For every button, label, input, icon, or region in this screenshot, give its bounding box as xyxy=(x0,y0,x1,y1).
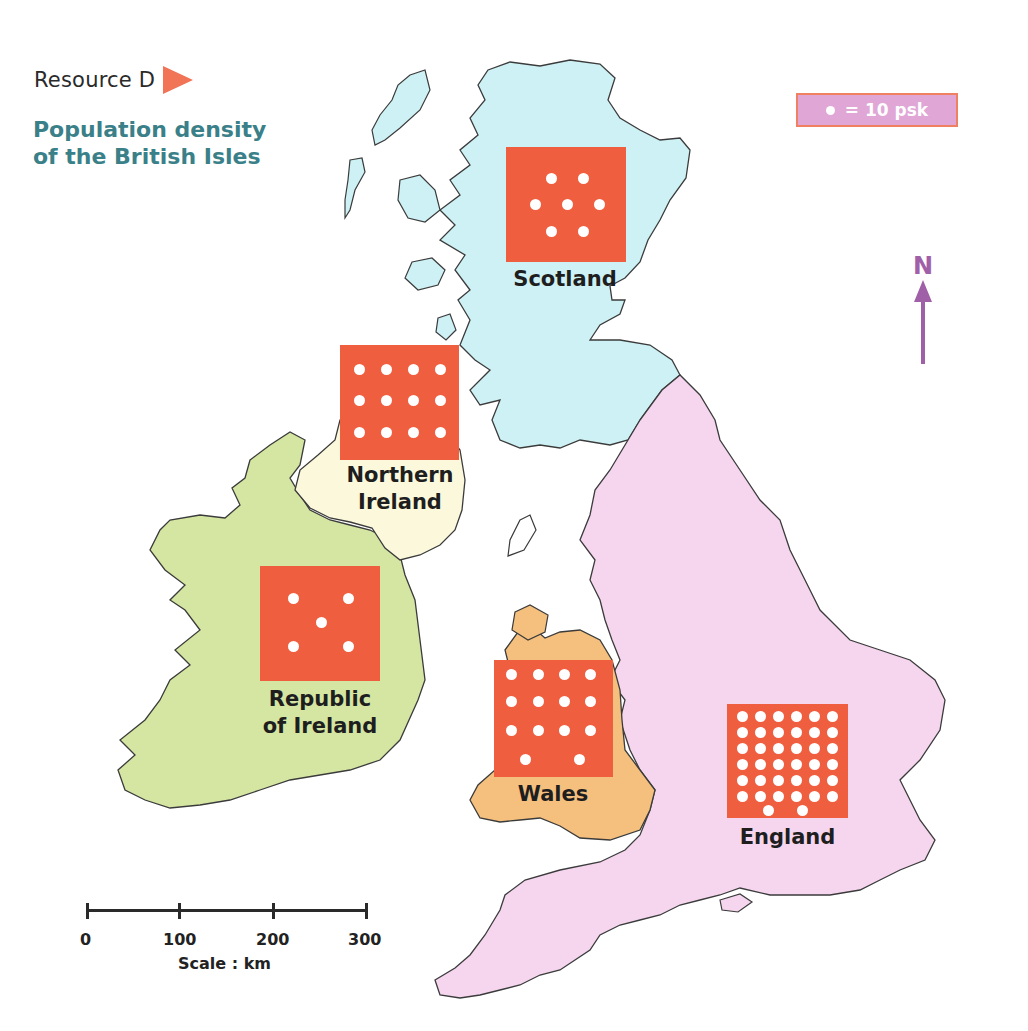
label-scotland: Scotland xyxy=(500,266,630,293)
density-dot xyxy=(546,173,557,184)
north-arrow-icon xyxy=(911,280,935,365)
density-dot xyxy=(827,711,838,722)
density-dot xyxy=(773,775,784,786)
density-dot xyxy=(827,759,838,770)
density-dot xyxy=(809,791,820,802)
play-arrow-icon xyxy=(163,66,193,94)
map-title-line-1: Population density xyxy=(33,116,266,143)
density-dot xyxy=(755,775,766,786)
dot-icon xyxy=(826,106,835,115)
density-dot xyxy=(737,743,748,754)
density-dot xyxy=(773,727,784,738)
north-label: N xyxy=(906,252,940,280)
density-dot xyxy=(791,775,802,786)
density-dot xyxy=(791,727,802,738)
density-dot xyxy=(559,725,570,736)
scale-caption: Scale : km xyxy=(178,954,271,973)
density-dot xyxy=(354,364,365,375)
density-dot xyxy=(594,199,605,210)
density-dot xyxy=(408,364,419,375)
density-dot xyxy=(343,641,354,652)
density-dot xyxy=(354,427,365,438)
isle-of-man xyxy=(508,515,536,556)
density-dot xyxy=(755,791,766,802)
scotland-island-lewis xyxy=(372,70,430,145)
scotland-island-skye xyxy=(398,175,440,222)
density-dot xyxy=(809,727,820,738)
density-dot xyxy=(354,395,365,406)
density-dot xyxy=(791,759,802,770)
density-dot xyxy=(755,759,766,770)
density-dot xyxy=(827,775,838,786)
density-dot xyxy=(585,669,596,680)
density-dot xyxy=(408,427,419,438)
key-text: = 10 psk xyxy=(845,100,928,120)
label-line: England xyxy=(725,824,850,851)
density-dot xyxy=(737,775,748,786)
density-dot xyxy=(763,805,774,816)
density-dot xyxy=(506,725,517,736)
resource-label-text: Resource D xyxy=(34,68,155,92)
density-dot xyxy=(827,791,838,802)
density-dot xyxy=(791,791,802,802)
label-line: Scotland xyxy=(500,266,630,293)
density-dot xyxy=(773,759,784,770)
scale-tick-200: 200 xyxy=(256,930,289,949)
isle-of-wight xyxy=(720,894,752,912)
density-dot xyxy=(809,743,820,754)
density-dot xyxy=(791,743,802,754)
density-dot xyxy=(737,791,748,802)
density-dot xyxy=(435,364,446,375)
density-dot xyxy=(533,696,544,707)
density-dot xyxy=(578,226,589,237)
density-dot xyxy=(559,669,570,680)
density-dot xyxy=(562,199,573,210)
density-dot xyxy=(737,727,748,738)
map-title-line-2: of the British Isles xyxy=(33,143,266,170)
scale-tick-100: 100 xyxy=(163,930,196,949)
density-dot xyxy=(737,759,748,770)
density-symbol-england xyxy=(727,704,848,818)
scotland-island-mull xyxy=(405,258,445,290)
scale-tick-300: 300 xyxy=(348,930,381,949)
density-symbol-scotland xyxy=(506,147,626,262)
density-symbol-republic-of-ireland xyxy=(260,566,380,681)
density-dot xyxy=(755,711,766,722)
density-dot xyxy=(809,775,820,786)
resource-label: Resource D xyxy=(34,66,193,94)
density-dot xyxy=(381,395,392,406)
density-dot xyxy=(530,199,541,210)
density-dot xyxy=(791,711,802,722)
density-dot xyxy=(773,711,784,722)
density-symbol-wales xyxy=(494,660,613,777)
density-dot xyxy=(559,696,570,707)
density-dot xyxy=(506,696,517,707)
density-dot xyxy=(574,754,585,765)
label-line: of Ireland xyxy=(250,713,390,740)
scotland-island-uist xyxy=(345,158,365,218)
density-dot xyxy=(343,593,354,604)
density-dot xyxy=(827,743,838,754)
density-dot xyxy=(435,427,446,438)
density-dot xyxy=(809,711,820,722)
density-dot xyxy=(533,725,544,736)
density-dot xyxy=(585,725,596,736)
density-dot xyxy=(506,669,517,680)
label-wales: Wales xyxy=(493,781,613,808)
density-dot xyxy=(533,669,544,680)
density-dot xyxy=(797,805,808,816)
density-dot xyxy=(585,696,596,707)
scale-tick-0: 0 xyxy=(80,930,91,949)
density-dot xyxy=(288,641,299,652)
scale-bar xyxy=(86,903,368,919)
density-dot xyxy=(737,711,748,722)
density-dot xyxy=(827,727,838,738)
density-dot xyxy=(381,427,392,438)
density-dot xyxy=(546,226,557,237)
scotland-island-islay xyxy=(436,314,456,340)
density-dot xyxy=(773,791,784,802)
label-republic-of-ireland: Republic of Ireland xyxy=(250,686,390,740)
density-symbol-northern-ireland xyxy=(340,345,459,460)
label-line: Republic xyxy=(250,686,390,713)
density-dot xyxy=(755,743,766,754)
